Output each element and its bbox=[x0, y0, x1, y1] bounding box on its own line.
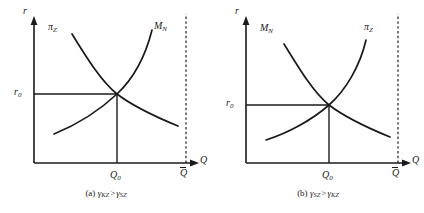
curve-pi-z-a bbox=[72, 34, 178, 126]
y-axis-b bbox=[243, 16, 250, 163]
panel-b-x-tick-q0: Q0 bbox=[322, 170, 333, 182]
panel-a: r Q r0 Q0 Q πZ MN (a) γKZ>γSZ bbox=[0, 0, 212, 213]
panel-a-plot bbox=[0, 0, 212, 213]
panel-a-x-axis-label: Q bbox=[200, 155, 207, 165]
panel-b-x-axis-label: Q bbox=[412, 155, 419, 165]
panel-b-caption: (b) γSZ>γKZ bbox=[212, 189, 424, 199]
panel-a-y-axis-label: r bbox=[23, 6, 27, 16]
panel-a-curve-label-m-n: MN bbox=[154, 21, 167, 33]
figure-root: r Q r0 Q0 Q πZ MN (a) γKZ>γSZ bbox=[0, 0, 424, 213]
panel-b-y-axis-label: r bbox=[235, 6, 239, 16]
panel-b-curve-label-m-n: MN bbox=[260, 23, 273, 35]
panel-a-y-tick-r0: r0 bbox=[14, 87, 21, 99]
panel-b-curve-label-pi-z: πZ bbox=[364, 22, 373, 34]
panel-a-curve-label-pi-z: πZ bbox=[48, 22, 57, 34]
curve-m-n-a bbox=[54, 30, 152, 134]
panel-b-y-tick-r0: r0 bbox=[226, 98, 233, 110]
curve-pi-z-b bbox=[266, 40, 366, 140]
y-axis-a bbox=[31, 16, 38, 163]
curve-m-n-b bbox=[284, 44, 390, 137]
panel-a-caption: (a) γKZ>γSZ bbox=[0, 189, 212, 199]
panel-b-x-tick-qbar: Q bbox=[392, 168, 399, 178]
panel-b-plot bbox=[212, 0, 424, 213]
panel-b: r Q r0 Q0 Q MN πZ (b) γSZ>γKZ bbox=[212, 0, 424, 213]
panel-a-x-tick-qbar: Q bbox=[180, 168, 187, 178]
panel-a-x-tick-q0: Q0 bbox=[110, 170, 121, 182]
